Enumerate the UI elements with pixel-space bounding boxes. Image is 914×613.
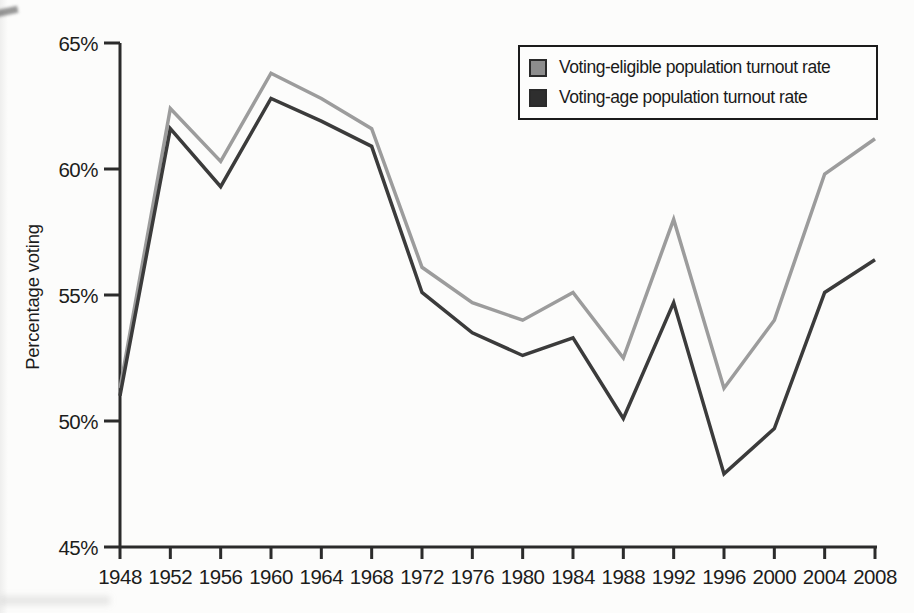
x-tick-label: 1984 — [551, 565, 595, 588]
x-tick-label: 1972 — [400, 565, 444, 588]
chart-legend: Voting-eligible population turnout rate … — [518, 45, 878, 120]
turnout-chart-page: 45%50%55%60%65%1948195219561960196419681… — [0, 0, 914, 613]
x-tick-label: 2008 — [853, 565, 897, 588]
x-tick-label: 1992 — [652, 565, 696, 588]
legend-item-voting-age: Voting-age population turnout rate — [529, 87, 876, 108]
x-tick-label: 1988 — [602, 565, 646, 588]
x-tick-label: 1968 — [350, 565, 394, 588]
y-tick-label: 55% — [58, 284, 98, 307]
x-tick-label: 1976 — [451, 565, 495, 588]
x-tick-label: 1960 — [249, 565, 293, 588]
x-tick-label: 1948 — [98, 565, 142, 588]
x-tick-label: 2004 — [803, 565, 847, 588]
x-tick-label: 1964 — [300, 565, 344, 588]
x-tick-label: 1996 — [702, 565, 746, 588]
axes — [104, 43, 877, 559]
voting-eligible-line — [120, 73, 875, 388]
voting-age-line — [120, 98, 875, 473]
legend-item-voting-eligible: Voting-eligible population turnout rate — [529, 57, 876, 78]
x-tick-label: 2000 — [753, 565, 797, 588]
x-tick-label: 1956 — [199, 565, 243, 588]
legend-swatch-voting-age — [529, 89, 547, 107]
x-tick-label: 1952 — [149, 565, 193, 588]
x-tick-label: 1980 — [501, 565, 545, 588]
legend-label-voting-age: Voting-age population turnout rate — [559, 87, 807, 108]
y-tick-label: 45% — [58, 536, 98, 559]
y-tick-label: 65% — [58, 32, 98, 55]
legend-label-voting-eligible: Voting-eligible population turnout rate — [559, 57, 830, 78]
y-axis-title: Percentage voting — [22, 224, 44, 370]
y-tick-label: 50% — [58, 410, 98, 433]
legend-swatch-voting-eligible — [529, 59, 547, 77]
y-tick-label: 60% — [58, 158, 98, 181]
